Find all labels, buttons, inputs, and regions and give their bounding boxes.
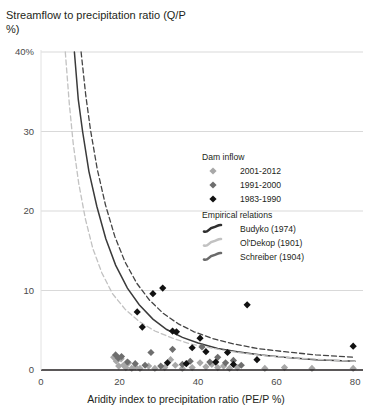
legend-entry-label: Budyko (1974)	[240, 224, 296, 234]
y-tick-label: 30	[2, 126, 34, 137]
x-tick-label: 40	[183, 376, 213, 387]
y-tick-label: 0	[2, 364, 34, 375]
empirical-curves	[65, 52, 355, 361]
x-tick-label: 80	[340, 376, 370, 387]
y-tick-label: 20	[2, 205, 34, 216]
x-tick-label: 20	[105, 376, 135, 387]
x-axis-title: Aridity index to precipitation ratio (PE…	[0, 392, 372, 406]
legend-entry-label: 1991-2000	[240, 180, 281, 190]
legend-entry-label: Ol'Dekop (1901)	[240, 238, 302, 248]
legend-group-heading: Dam inflow	[202, 152, 245, 162]
y-tick-label: 10	[2, 285, 34, 296]
plot-canvas	[0, 0, 372, 417]
y-tick-label: 40%	[2, 46, 34, 57]
x-tick-label: 0	[26, 376, 56, 387]
chart-figure: Streamflow to precipitation ratio (Q/P %…	[0, 0, 372, 417]
legend-entry-label: 1983-1990	[240, 194, 281, 204]
legend-entry-label: 2001-2012	[240, 166, 281, 176]
legend-entry-label: Schreiber (1904)	[240, 252, 304, 262]
legend-group-heading: Empirical relations	[202, 210, 272, 220]
x-tick-label: 60	[262, 376, 292, 387]
